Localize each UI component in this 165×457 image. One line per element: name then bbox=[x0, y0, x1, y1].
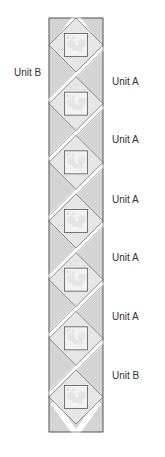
fabric-mottle bbox=[66, 94, 70, 98]
unit-label-right-3: Unit A bbox=[112, 194, 139, 206]
fabric-mottle bbox=[66, 152, 70, 156]
unit-label-right-5: Unit A bbox=[112, 311, 139, 323]
fabric-mottle bbox=[77, 46, 83, 52]
fabric-mottle bbox=[78, 332, 86, 340]
fabric-mottle bbox=[66, 270, 70, 274]
fabric-mottle bbox=[77, 163, 83, 169]
fabric-mottle bbox=[71, 212, 75, 216]
fabric-mottle bbox=[77, 281, 83, 287]
fabric-mottle bbox=[77, 398, 83, 404]
fabric-mottle bbox=[78, 39, 86, 47]
fabric-mottle bbox=[78, 215, 86, 223]
fabric-mottle bbox=[71, 153, 75, 157]
fabric-mottle bbox=[77, 222, 83, 228]
fabric-mottle bbox=[66, 35, 70, 39]
fabric-mottle bbox=[78, 391, 86, 399]
unit-label-right-2: Unit A bbox=[112, 134, 139, 146]
fabric-mottle bbox=[67, 333, 75, 341]
fabric-mottle bbox=[67, 99, 75, 107]
fabric-mottle bbox=[67, 392, 75, 400]
fabric-mottle bbox=[71, 95, 75, 99]
fabric-mottle bbox=[67, 157, 75, 165]
unit-label-left-0: Unit B bbox=[14, 67, 41, 79]
fabric-mottle bbox=[77, 339, 83, 345]
fabric-mottle bbox=[77, 105, 83, 111]
fabric-mottle bbox=[67, 40, 75, 48]
unit-label-right-4: Unit A bbox=[112, 252, 139, 264]
fabric-mottle bbox=[67, 216, 75, 224]
fabric-mottle bbox=[71, 271, 75, 275]
fabric-mottle bbox=[66, 211, 70, 215]
fabric-mottle bbox=[78, 274, 86, 282]
fabric-mottle bbox=[71, 388, 75, 392]
fabric-mottle bbox=[78, 156, 86, 164]
fabric-mottle bbox=[67, 275, 75, 283]
fabric-mottle bbox=[71, 329, 75, 333]
fabric-mottle bbox=[78, 98, 86, 106]
unit-label-right-6: Unit B bbox=[112, 370, 139, 382]
unit-label-right-1: Unit A bbox=[112, 76, 139, 88]
fabric-mottle bbox=[66, 387, 70, 391]
fabric-mottle bbox=[71, 36, 75, 40]
fabric-mottle bbox=[66, 328, 70, 332]
